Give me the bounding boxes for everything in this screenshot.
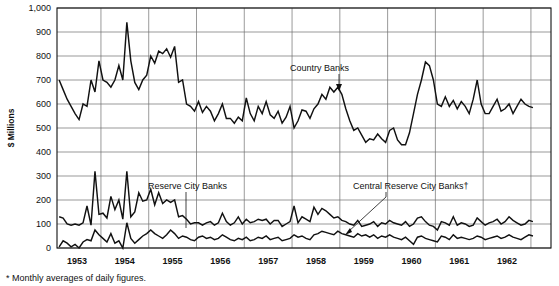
chart-figure: 01002003004005006007008009001,000 195319…	[0, 0, 559, 286]
y-axis-tick-label: 400	[36, 147, 51, 157]
y-axis-tick-label: 500	[36, 123, 51, 133]
bank-borrowings-line-chart: 01002003004005006007008009001,000 195319…	[0, 0, 559, 286]
y-axis-tick-label: 100	[36, 219, 51, 229]
y-axis-tick-label: 300	[36, 171, 51, 181]
y-axis-tick-label: 900	[36, 27, 51, 37]
chart-background	[0, 0, 559, 286]
y-axis-tick-label: 200	[36, 195, 51, 205]
x-axis-year-label: 1956	[210, 256, 230, 266]
x-axis-year-label: 1961	[449, 256, 469, 266]
y-axis-tick-label: 700	[36, 75, 51, 85]
y-axis-title: $ Millions	[6, 108, 16, 147]
x-axis-year-label: 1953	[67, 256, 87, 266]
x-axis-year-label: 1957	[258, 256, 278, 266]
x-axis-year-label: 1959	[354, 256, 374, 266]
x-axis-year-label: 1962	[497, 256, 517, 266]
country-banks-label: Country Banks	[290, 63, 350, 73]
y-axis-tick-label: 0	[46, 243, 51, 253]
y-axis-tick-label: 600	[36, 99, 51, 109]
central-reserve-city-banks-label: Central Reserve City Banks†	[353, 181, 469, 191]
x-axis-year-label: 1955	[163, 256, 183, 266]
x-axis-year-label: 1958	[306, 256, 326, 266]
x-axis-year-label: 1954	[115, 256, 135, 266]
reserve-city-banks-label: Reserve City Banks	[148, 181, 228, 191]
x-axis-year-label: 1960	[401, 256, 421, 266]
y-axis-tick-label: 800	[36, 51, 51, 61]
y-axis-tick-label: 1,000	[28, 3, 51, 13]
footnote: * Monthly averages of daily figures.	[6, 273, 146, 283]
